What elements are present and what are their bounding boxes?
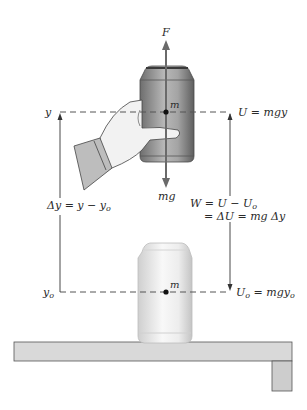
label-work-line1: W = U − Uo	[190, 197, 257, 211]
potential-energy-diagram: F mg m m y yo U = mgy Uo = mgyo Δy = y −…	[0, 0, 307, 410]
label-y: y	[44, 106, 52, 119]
label-mass-lower: m	[170, 279, 179, 290]
arrow-up-icon	[162, 40, 170, 50]
label-delta-y: Δy = y − yo	[46, 199, 111, 213]
shelf-leg	[272, 361, 292, 391]
label-force-down: mg	[158, 190, 175, 203]
label-U: U = mgy	[238, 106, 288, 119]
label-work-line2: = ΔU = mg Δy	[204, 210, 286, 223]
mass-point-lower	[163, 289, 168, 294]
label-force-up: F	[161, 26, 170, 39]
mass-point-upper	[163, 109, 168, 114]
label-y0: yo	[42, 286, 54, 300]
shelf	[14, 342, 292, 391]
label-mass-upper: m	[170, 99, 179, 110]
label-U0: Uo = mgyo	[236, 286, 295, 300]
arrow-down-icon	[162, 178, 170, 188]
